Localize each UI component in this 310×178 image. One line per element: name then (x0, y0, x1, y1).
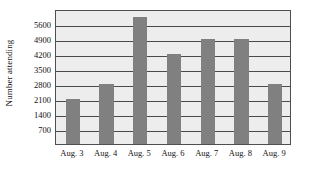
bars-group (56, 11, 290, 144)
y-tick-label: 4900 (34, 35, 51, 45)
y-axis-title-text: Number attending (4, 39, 14, 106)
x-tick-label: Aug. 6 (161, 148, 184, 158)
bar (201, 39, 215, 144)
x-tick-label: Aug. 5 (128, 148, 151, 158)
plot-area (55, 10, 291, 145)
bar-chart: Number attending 70014002100280035004200… (0, 0, 310, 178)
x-tick-label: Aug. 8 (229, 148, 252, 158)
bar (99, 84, 113, 144)
y-tick-label: 3500 (34, 65, 51, 75)
x-tick-label: Aug. 3 (60, 148, 83, 158)
y-tick-label: 5600 (34, 20, 51, 30)
bar (66, 99, 80, 144)
bar (167, 54, 181, 144)
x-tick-label: Aug. 7 (195, 148, 218, 158)
x-tick-label: Aug. 9 (263, 148, 286, 158)
y-axis-title: Number attending (0, 0, 18, 145)
bar (133, 17, 147, 145)
bar (268, 84, 282, 144)
x-tick-label: Aug. 4 (94, 148, 117, 158)
y-tick-label: 4200 (34, 50, 51, 60)
y-tick-label: 700 (38, 125, 51, 135)
y-tick-label: 2100 (34, 95, 51, 105)
y-tick-label: 1400 (34, 110, 51, 120)
x-axis-tick-labels: Aug. 3Aug. 4Aug. 5Aug. 6Aug. 7Aug. 8Aug.… (55, 148, 291, 164)
y-tick-label: 2800 (34, 80, 51, 90)
bar (234, 39, 248, 144)
y-axis-tick-labels: 7001400210028003500420049005600 (18, 10, 54, 145)
